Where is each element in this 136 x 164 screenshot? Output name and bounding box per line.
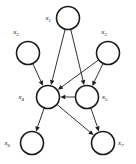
edge-x3-to-x4	[58, 60, 98, 90]
edges-layer	[33, 30, 103, 135]
node-label-x1: x1	[44, 14, 51, 23]
arrowhead-x1-to-x5	[81, 80, 85, 85]
node-x7[interactable]	[92, 132, 115, 155]
node-x5[interactable]	[76, 86, 99, 109]
node-x3[interactable]	[97, 42, 120, 65]
edge-x1-to-x5	[71, 30, 85, 85]
node-label-x7: x7	[117, 139, 124, 148]
edge-x3-to-x5	[92, 64, 103, 86]
edge-x5-to-x4	[60, 95, 75, 100]
edge-x1-to-x4	[50, 30, 65, 85]
edge-x4-to-x6	[36, 108, 45, 131]
node-x1[interactable]	[57, 7, 80, 30]
node-label-x3: x3	[100, 28, 107, 37]
node-x4[interactable]	[37, 86, 60, 109]
edge-x4-to-x7	[57, 105, 93, 135]
arrowhead-x4-to-x6	[36, 126, 40, 131]
node-label-x6: x6	[3, 139, 10, 148]
edge-x5-to-x7	[91, 108, 100, 131]
node-x2[interactable]	[17, 42, 40, 65]
graph-diagram: x1x2x3x4x5x6x7	[0, 0, 136, 164]
node-label-x4: x4	[17, 93, 24, 102]
arrowhead-x5-to-x7	[95, 126, 99, 131]
arrowhead-x3-to-x4	[58, 85, 63, 90]
node-label-x2: x2	[12, 28, 19, 37]
edge-x2-to-x4	[33, 64, 43, 86]
node-x6[interactable]	[21, 132, 44, 155]
node-label-x5: x5	[101, 93, 108, 102]
graph-canvas: x1x2x3x4x5x6x7	[0, 0, 136, 164]
arrowhead-x1-to-x4	[50, 80, 54, 85]
arrowhead-x5-to-x4	[60, 95, 65, 100]
